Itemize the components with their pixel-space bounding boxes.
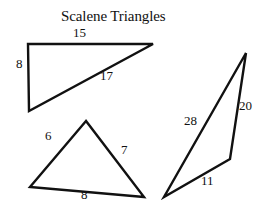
- triangle-obtuse-scalene: 28 20 11: [164, 53, 252, 197]
- label-side-17: 17: [100, 68, 114, 83]
- label-side-11: 11: [201, 173, 214, 188]
- triangle-right-scalene: 15 8 17: [16, 25, 153, 111]
- label-side-7: 7: [121, 142, 128, 157]
- label-side-20: 20: [239, 98, 252, 113]
- triangle-acute-scalene: 6 7 8: [30, 121, 144, 202]
- triangle-1-shape: [28, 44, 153, 111]
- label-side-6: 6: [45, 128, 52, 143]
- label-side-28: 28: [184, 113, 197, 128]
- label-side-8b: 8: [81, 187, 88, 202]
- label-side-15: 15: [73, 25, 86, 40]
- triangles-figure: 15 8 17 6 7 8 28 20 11: [0, 0, 277, 219]
- label-side-8: 8: [16, 56, 23, 71]
